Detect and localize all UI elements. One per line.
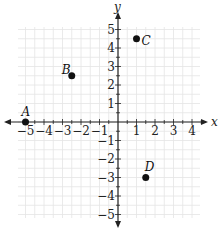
point-marker [22,119,29,126]
x-tick-label: 3 [170,124,178,138]
x-axis-right-arrow-icon [201,119,208,125]
y-tick-label: 3 [107,60,115,74]
y-tick-label: −2 [97,152,115,166]
x-tick-label: 2 [151,124,159,138]
point-marker [133,35,140,42]
x-tick-label: −2 [72,124,90,138]
point-b: B [61,63,76,80]
y-tick-label: −5 [97,208,115,222]
y-axis-down-arrow-icon [115,221,121,228]
y-tick-label: −4 [97,189,115,203]
point-marker [142,174,149,181]
y-tick-label: 1 [107,97,115,111]
x-tick-label: 4 [188,124,196,138]
x-tick-label: 1 [133,124,141,138]
x-axis-label: x [211,115,218,129]
point-label: A [21,105,31,119]
x-tick-label: −3 [54,124,72,138]
y-tick-label: 2 [107,78,115,92]
y-tick-label: −1 [97,134,115,148]
point-label: C [142,34,151,48]
y-tick-label: −3 [97,171,115,185]
point-label: B [61,63,71,77]
point-c: C [133,34,151,48]
x-tick-label: −4 [35,124,53,138]
x-tick-label: −5 [17,124,35,138]
y-tick-label: 4 [107,41,115,55]
y-tick-label: 5 [107,23,115,37]
x-axis-left-arrow-icon [4,119,11,125]
y-axis-label: y [113,0,121,14]
point-label: D [144,160,155,174]
coordinate-plane: xy −5−4−3−2−11234−5−4−3−2−112345 ABCD [0,0,218,230]
